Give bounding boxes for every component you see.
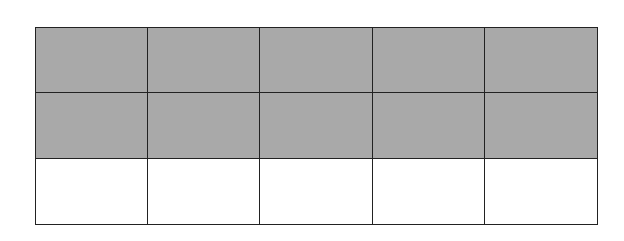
shaded-cell [485,28,597,93]
shaded-cell [148,93,260,158]
shaded-cell [260,28,372,93]
shaded-cell [260,93,372,158]
unshaded-cell [36,159,148,224]
shaded-cell [36,28,148,93]
shaded-cell [373,93,485,158]
shaded-cell [148,28,260,93]
shaded-cell [373,28,485,93]
fraction-grid [35,27,598,225]
unshaded-cell [260,159,372,224]
unshaded-cell [373,159,485,224]
shaded-cell [36,93,148,158]
unshaded-cell [485,159,597,224]
shaded-cell [485,93,597,158]
unshaded-cell [148,159,260,224]
